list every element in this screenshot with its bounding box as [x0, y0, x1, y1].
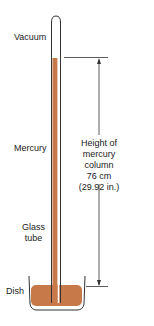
- vacuum-label: Vacuum: [14, 32, 46, 43]
- height-label: Height of mercury column 76 cm (29.92 in…: [76, 138, 122, 193]
- mercury-label: Mercury: [14, 143, 47, 154]
- glass-tube-label: Glass tube: [22, 222, 45, 244]
- arrow-down-icon: [97, 280, 101, 286]
- mercury-column: [53, 58, 58, 304]
- arrow-up-icon: [97, 58, 101, 64]
- dish-label: Dish: [6, 286, 24, 297]
